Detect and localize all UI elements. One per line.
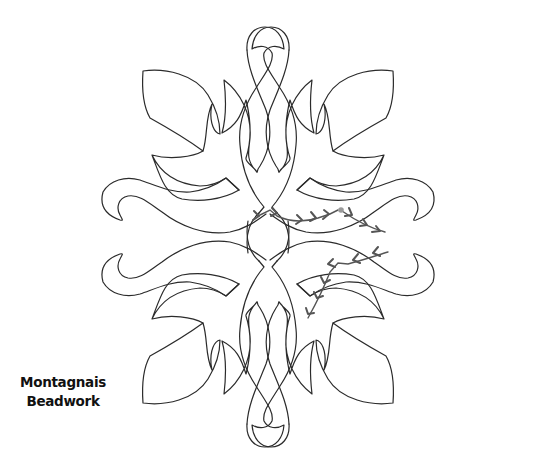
start-point-dot [338, 207, 344, 213]
caption-line-2: Beadwork [2, 392, 124, 411]
stitch-path [253, 207, 388, 318]
pattern-caption: Montagnais Beadwork [2, 373, 124, 411]
caption-line-1: Montagnais [2, 373, 124, 392]
